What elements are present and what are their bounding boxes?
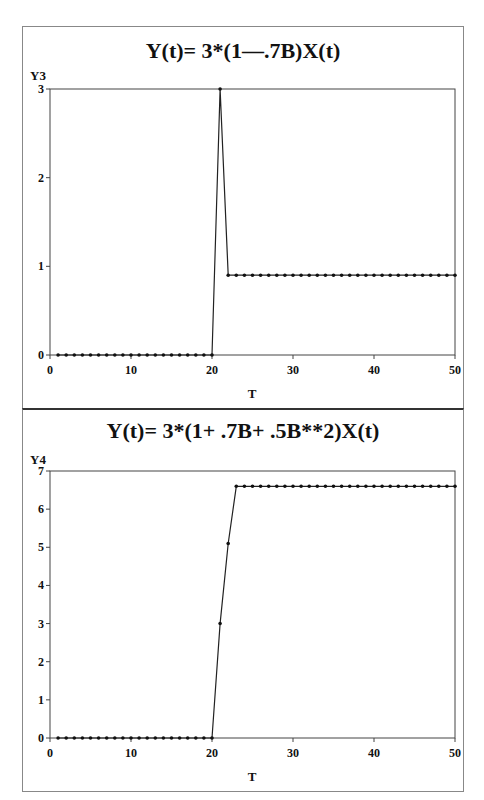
data-point — [291, 273, 295, 277]
data-point — [413, 273, 417, 277]
x-tick-label: 20 — [206, 746, 218, 760]
data-point — [73, 353, 77, 357]
x-tick-label: 50 — [449, 363, 461, 377]
x-tick-label: 30 — [287, 363, 299, 377]
data-point — [97, 353, 101, 357]
data-point — [316, 484, 320, 488]
data-point — [397, 273, 401, 277]
data-point — [121, 736, 125, 740]
data-point — [324, 484, 328, 488]
data-point — [453, 273, 457, 277]
data-point — [429, 273, 433, 277]
data-point — [364, 484, 368, 488]
x-tick-label: 10 — [125, 363, 137, 377]
x-tick-label: 0 — [47, 746, 53, 760]
data-point — [73, 736, 77, 740]
data-point — [372, 484, 376, 488]
data-point — [445, 484, 449, 488]
x-tick-label: 10 — [125, 746, 137, 760]
x-axis-label: T — [248, 386, 257, 401]
data-point — [145, 736, 149, 740]
data-point — [283, 484, 287, 488]
data-point — [89, 736, 93, 740]
data-point — [56, 736, 60, 740]
data-point — [154, 353, 158, 357]
y-axis-label: Y3 — [30, 68, 46, 83]
data-point — [388, 484, 392, 488]
y-tick-label: 0 — [38, 348, 44, 362]
data-point — [210, 353, 214, 357]
data-point — [226, 273, 230, 277]
data-point — [105, 736, 109, 740]
data-point — [275, 273, 279, 277]
series-line — [58, 486, 455, 738]
chart-title: Y(t)= 3*(1+ .7B+ .5B**2)X(t) — [107, 418, 380, 443]
data-point — [267, 273, 271, 277]
data-point — [170, 736, 174, 740]
series-line — [58, 89, 455, 355]
data-point — [348, 484, 352, 488]
data-point — [356, 484, 360, 488]
chart-y3: Y(t)= 3*(1—.7B)X(t) Y3 T 012301020304050 — [30, 38, 461, 401]
y-tick-label: 5 — [38, 540, 44, 554]
chart-title: Y(t)= 3*(1—.7B)X(t) — [146, 38, 341, 63]
data-point — [445, 273, 449, 277]
x-tick-label: 30 — [287, 746, 299, 760]
y-tick-label: 7 — [38, 464, 44, 478]
data-point — [372, 273, 376, 277]
y-tick-label: 6 — [38, 502, 44, 516]
y-tick-label: 3 — [38, 617, 44, 631]
y-tick-label: 0 — [38, 731, 44, 745]
plot-area: 0123456701020304050 — [38, 464, 461, 760]
y-tick-label: 1 — [38, 259, 44, 273]
data-point — [299, 273, 303, 277]
data-point — [81, 353, 85, 357]
plot-area: 012301020304050 — [38, 82, 461, 377]
data-point — [162, 736, 166, 740]
data-point — [332, 484, 336, 488]
x-tick-label: 0 — [47, 363, 53, 377]
data-point — [405, 484, 409, 488]
data-point — [194, 736, 198, 740]
data-point — [81, 736, 85, 740]
y-tick-label: 1 — [38, 693, 44, 707]
data-point — [178, 353, 182, 357]
data-point — [218, 87, 222, 91]
data-point — [202, 736, 206, 740]
data-point — [97, 736, 101, 740]
data-point — [397, 484, 401, 488]
y-tick-label: 3 — [38, 82, 44, 96]
data-point — [194, 353, 198, 357]
data-point — [364, 273, 368, 277]
data-point — [388, 273, 392, 277]
data-point — [259, 484, 263, 488]
data-point — [121, 353, 125, 357]
data-point — [210, 736, 214, 740]
plot-frame — [50, 471, 455, 738]
x-axis-label: T — [248, 769, 257, 784]
data-point — [324, 273, 328, 277]
data-point — [162, 353, 166, 357]
plot-frame — [50, 89, 455, 355]
x-tick-label: 50 — [449, 746, 461, 760]
data-point — [340, 273, 344, 277]
data-point — [186, 736, 190, 740]
x-tick-label: 40 — [368, 746, 380, 760]
data-point — [316, 273, 320, 277]
data-point — [129, 353, 133, 357]
y-tick-label: 2 — [38, 171, 44, 185]
data-point — [259, 273, 263, 277]
data-point — [235, 273, 239, 277]
data-point — [380, 484, 384, 488]
data-point — [105, 353, 109, 357]
data-point — [283, 273, 287, 277]
data-point — [218, 622, 222, 626]
data-point — [405, 273, 409, 277]
data-point — [340, 484, 344, 488]
data-point — [429, 484, 433, 488]
x-tick-label: 40 — [368, 363, 380, 377]
data-point — [380, 273, 384, 277]
data-point — [437, 484, 441, 488]
data-point — [64, 736, 68, 740]
data-point — [137, 353, 141, 357]
